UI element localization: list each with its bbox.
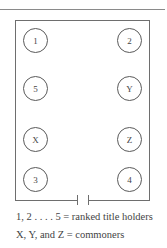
bottom-wall-right: [88, 200, 149, 201]
seat-left-1: 1: [23, 28, 48, 53]
seat-right-2: Y: [117, 76, 142, 101]
seat-left-3: X: [23, 127, 48, 152]
bottom-wall-left: [15, 200, 78, 201]
legend-line-1: 1, 2 . . . . 5 = ranked title holders: [16, 211, 153, 222]
seat-right-4: 4: [117, 167, 142, 192]
legend-line-2: X, Y, and Z = commoners: [16, 229, 124, 240]
seat-right-1: 2: [117, 28, 142, 53]
top-rule: [0, 9, 165, 10]
seat-right-3: Z: [117, 127, 142, 152]
seat-left-2: 5: [23, 76, 48, 101]
seat-left-4: 3: [23, 167, 48, 192]
door-jamb-right: [88, 195, 89, 205]
door-jamb-left: [77, 195, 78, 205]
